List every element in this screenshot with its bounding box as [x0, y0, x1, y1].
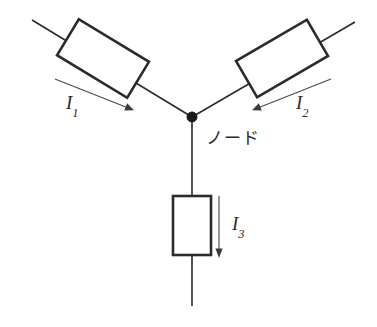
resistor-branch-3: [173, 196, 211, 255]
current-arrow-branch-3: [215, 196, 222, 258]
current-label-i1-subscript: 1: [72, 106, 78, 120]
resistor-branch-1: [57, 19, 149, 97]
current-label-i2-subscript: 2: [302, 106, 308, 120]
node-dot: [187, 112, 197, 122]
current-label-i3: I3: [232, 213, 245, 239]
node-diagram: I1 I2 I3 ノード: [0, 0, 377, 327]
node-label: ノード: [206, 124, 260, 149]
current-label-i1: I1: [66, 92, 79, 118]
current-label-i3-subscript: 3: [238, 227, 244, 241]
circuit-schematic-svg: [0, 0, 377, 327]
current-label-i2: I2: [296, 92, 309, 118]
